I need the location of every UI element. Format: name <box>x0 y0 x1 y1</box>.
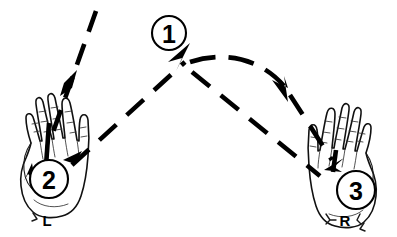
hand-left-label: L <box>42 212 51 229</box>
badge-3-label: 3 <box>349 177 363 205</box>
badge-2-label: 2 <box>42 166 56 194</box>
trace-right-finger <box>333 150 336 172</box>
badge-3: 3 <box>337 171 375 209</box>
diagram-canvas: 1 2 3 L R <box>0 0 397 237</box>
hand-motion-diagram: 1 2 3 L R <box>0 0 397 237</box>
hand-right-label: R <box>340 212 351 229</box>
path-apex-to-right-hand <box>192 72 320 176</box>
badge-1: 1 <box>152 16 186 50</box>
badge-1-label: 1 <box>162 20 176 48</box>
path-left-hand-to-apex <box>72 62 185 165</box>
badge-2: 2 <box>30 160 68 198</box>
